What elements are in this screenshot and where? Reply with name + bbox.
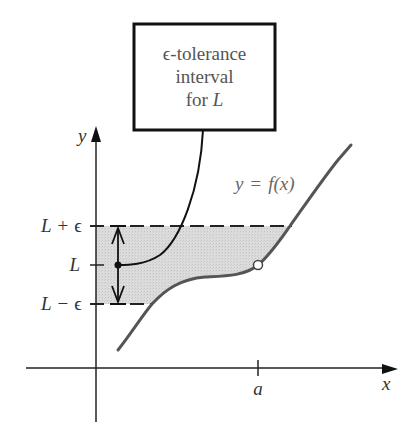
x-axis-label: x [381, 373, 391, 394]
callout-line-2: interval [175, 66, 233, 87]
L-point-dot-icon [115, 262, 122, 269]
y-axis-label: y [76, 125, 87, 146]
y-axis-arrow-icon [91, 126, 101, 142]
curve-label: y=f(x) [233, 173, 295, 195]
callout-line-1: ϵ-tolerance [163, 43, 247, 64]
L-label: L [68, 254, 80, 275]
lower-bound-label: L−ϵ [40, 293, 82, 314]
callout-line-3: for L [186, 89, 223, 110]
hole-at-a-icon [254, 261, 263, 270]
epsilon-tolerance-diagram: ϵ-tolerance interval for L y x a L+ϵ L L… [0, 0, 416, 443]
upper-bound-label: L+ϵ [40, 215, 82, 236]
a-tick-label: a [253, 378, 263, 399]
